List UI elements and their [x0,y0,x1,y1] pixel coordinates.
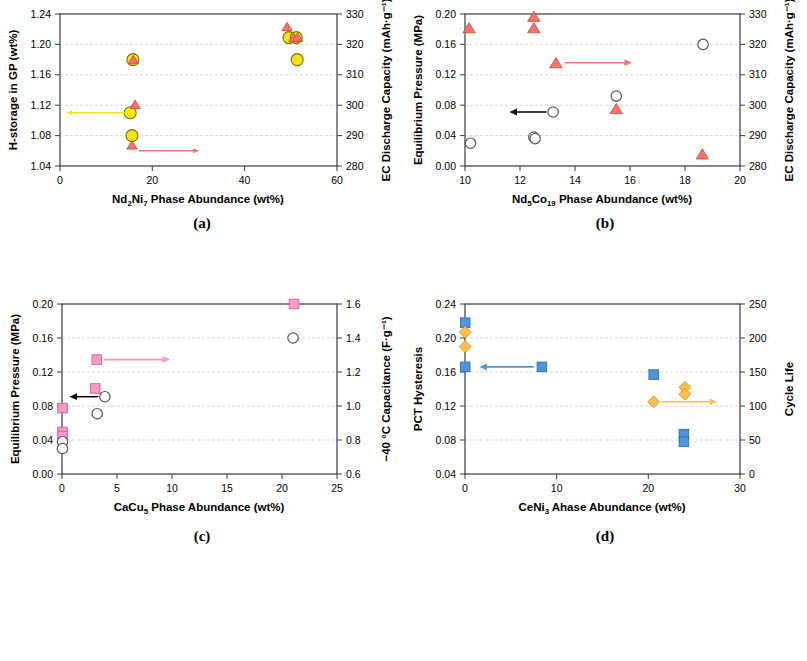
x-tick: 0 [59,482,65,494]
y-tick-left: 0.16 [33,332,54,344]
data-point-open-circle [57,443,67,453]
data-point-open-circle [698,39,708,49]
y-tick-right: 290 [749,129,767,141]
y-tick-right: 150 [749,366,767,378]
y-tick-right: 330 [749,8,767,20]
x-tick: 18 [679,174,691,186]
x-tick: 12 [514,174,526,186]
y-tick-left: 0.08 [33,400,54,412]
x-tick: 15 [221,482,233,494]
y-tick-right: 0.8 [346,434,361,446]
panel-a-plot-area: 1.04 1.08 1.12 1.16 1.20 1.24 280 290 [7,0,392,208]
x-tick: 20 [734,174,746,186]
y-tick-left: 0.16 [436,38,457,50]
y-tick-right: 280 [346,160,364,172]
x-tick: 10 [551,482,563,494]
plot-frame [465,14,740,166]
x-tick: 30 [734,482,746,494]
y-axis-right-ticks: 280 290 300 310 320 330 [740,8,767,172]
panel-d: 0.04 0.08 0.12 0.16 0.20 0.24 0 50 1 [403,290,807,540]
y-tick-left: 0.24 [436,298,457,310]
panel-b-chart: 0.00 0.04 0.08 0.12 0.16 0.20 280 290 [403,0,807,225]
data-point-square [460,362,470,372]
y-tick-left: 0.04 [436,129,457,141]
y-tick-right: 300 [749,99,767,111]
y-tick-left: 1.04 [31,160,52,172]
y-axis-right-title: Cycle Life [783,362,795,416]
y-tick-right: 1.6 [346,298,361,310]
y-tick-left: 1.20 [31,38,52,50]
data-point-square [58,403,68,413]
x-axis-title: Nd5Co19 Phase Abundance (wt%) [512,193,692,208]
x-axis-ticks: 0 5 10 15 20 25 [59,474,343,494]
x-tick: 20 [642,482,654,494]
y-tick-left: 0.08 [436,99,457,111]
x-tick: 20 [276,482,288,494]
panel-d-plot-area: 0.04 0.08 0.12 0.16 0.20 0.24 0 50 1 [412,298,795,517]
data-point-open-circle [92,409,102,419]
y-tick-right: 310 [749,68,767,80]
y-tick-right: 280 [749,160,767,172]
data-point-square [92,355,102,365]
y-tick-left: 0.20 [436,8,457,20]
y-tick-right: 50 [749,434,761,446]
panel-letter-c: (c) [0,528,404,545]
y-tick-right: 290 [346,129,364,141]
panel-c-plot-area: 0.00 0.04 0.08 0.12 0.16 0.20 0.6 0.8 [9,298,392,517]
x-tick: 25 [331,482,343,494]
y-axis-right-ticks: 0 50 100 150 200 250 [740,298,767,480]
y-tick-right: 330 [346,8,364,20]
x-tick: 5 [114,482,120,494]
panel-a: 1.04 1.08 1.12 1.16 1.20 1.24 280 290 [0,0,404,225]
y-tick-left: 0.12 [33,366,54,378]
y-axis-right-title: EC Discharge Capacity (mAh·g⁻¹) [380,0,392,182]
x-axis-title: CaCu5 Phase Abundance (wt%) [114,501,285,516]
panel-letter-b: (b) [403,215,807,232]
panel-d-chart: 0.04 0.08 0.12 0.16 0.20 0.24 0 50 1 [403,290,807,540]
y-tick-left: 1.08 [31,129,52,141]
y-tick-right: 0 [749,468,755,480]
y-axis-left-ticks: 1.04 1.08 1.12 1.16 1.20 1.24 [31,8,60,172]
x-tick: 20 [146,174,158,186]
x-axis-ticks: 0 20 40 60 [57,166,343,186]
x-tick: 40 [239,174,251,186]
plot-frame [465,304,740,474]
x-tick: 16 [624,174,636,186]
data-point-open-circle [548,107,558,117]
panel-b-plot-area: 0.00 0.04 0.08 0.12 0.16 0.20 280 290 [412,0,795,208]
data-point-square [289,299,299,309]
y-axis-right-ticks: 0.6 0.8 1.0 1.2 1.4 1.6 [337,298,361,480]
data-point-square [649,370,659,380]
y-tick-right: 0.6 [346,468,361,480]
y-tick-left: 1.16 [31,68,52,80]
data-point-open-circle [288,333,298,343]
y-axis-left-title: Equilibrium Pressure (MPa) [9,314,21,464]
data-point-open-circle [611,91,621,101]
x-axis-title: Nd2Ni7 Phase Abundance (wt%) [112,193,284,208]
y-axis-left-ticks: 0.00 0.04 0.08 0.12 0.16 0.20 [436,8,465,172]
panel-letter-a: (a) [0,215,404,232]
data-point-square [679,437,689,447]
y-axis-left-title: PCT Hysteresis [412,347,424,431]
data-point-circle [291,54,303,66]
y-axis-right-title: −40 °C Capacitance (F·g⁻¹) [380,316,392,461]
data-point-open-circle [530,133,540,143]
data-point-square [537,362,547,372]
panel-c: 0.00 0.04 0.08 0.12 0.16 0.20 0.6 0.8 [0,290,404,540]
panel-a-chart: 1.04 1.08 1.12 1.16 1.20 1.24 280 290 [0,0,404,225]
y-tick-right: 100 [749,400,767,412]
y-tick-right: 320 [346,38,364,50]
y-tick-left: 1.12 [31,99,52,111]
data-point-square [90,384,100,394]
y-tick-left: 0.20 [436,332,457,344]
x-axis-ticks: 10 12 14 16 18 20 [459,166,746,186]
figure-container: 1.04 1.08 1.12 1.16 1.20 1.24 280 290 [0,0,807,661]
panel-letter-d: (d) [403,528,807,545]
panel-c-chart: 0.00 0.04 0.08 0.12 0.16 0.20 0.6 0.8 [0,290,404,540]
y-tick-right: 1.2 [346,366,361,378]
data-point-circle [126,130,138,142]
x-tick: 0 [57,174,63,186]
y-tick-left: 0.00 [436,160,457,172]
x-tick: 60 [331,174,343,186]
y-tick-left: 0.16 [436,366,457,378]
